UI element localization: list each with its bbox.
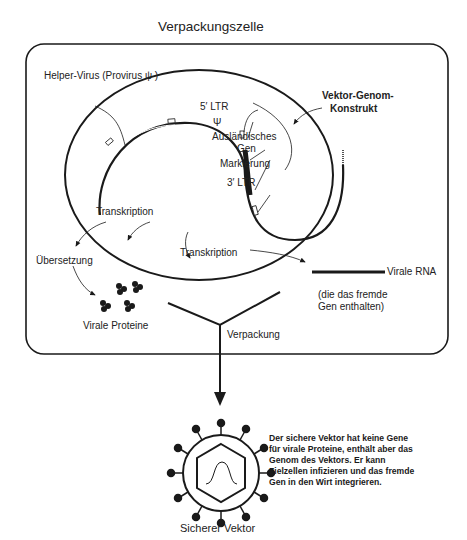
translation-label: Übersetzung xyxy=(36,255,93,267)
ltr5-label: 5′ LTR xyxy=(200,101,228,113)
psi-label: Ψ xyxy=(213,117,221,129)
vector-construct-label-1: Vektor-Genom- xyxy=(322,90,394,102)
foreign-gene-label-2: Gen xyxy=(237,143,256,155)
viral-rna-label: Virale RNA xyxy=(387,266,436,278)
transcription-center-label: Transkription xyxy=(180,247,237,259)
safe-vector-particle xyxy=(168,420,275,527)
ltr3-label: 3′ LTR xyxy=(227,177,255,189)
viral-protein-clusters xyxy=(100,281,143,312)
packaging-arrowhead xyxy=(214,392,226,406)
diagram-title: Verpackungszelle xyxy=(158,21,264,33)
safe-vector-label: Sicherer Vektor xyxy=(180,522,255,534)
viral-rna-note-2: Gen enthalten) xyxy=(318,301,384,313)
packaging-label: Verpackung xyxy=(227,329,280,341)
packaging-y xyxy=(168,292,280,395)
vector-construct-label-2: Konstrukt xyxy=(330,103,377,115)
safe-vector-description: Der sichere Vektor hat keine Gene für vi… xyxy=(269,433,419,488)
marker-label: Markierung xyxy=(220,158,270,170)
foreign-gene-label-1: Ausländisches xyxy=(212,131,276,143)
transcription-left-label: Transkription xyxy=(96,206,153,218)
viral-rna-note-1: (die das fremde xyxy=(318,289,387,301)
helper-virus-label: Helper-Virus (Provirus ψ ) xyxy=(44,70,158,82)
viral-proteins-label: Virale Proteine xyxy=(83,320,148,332)
